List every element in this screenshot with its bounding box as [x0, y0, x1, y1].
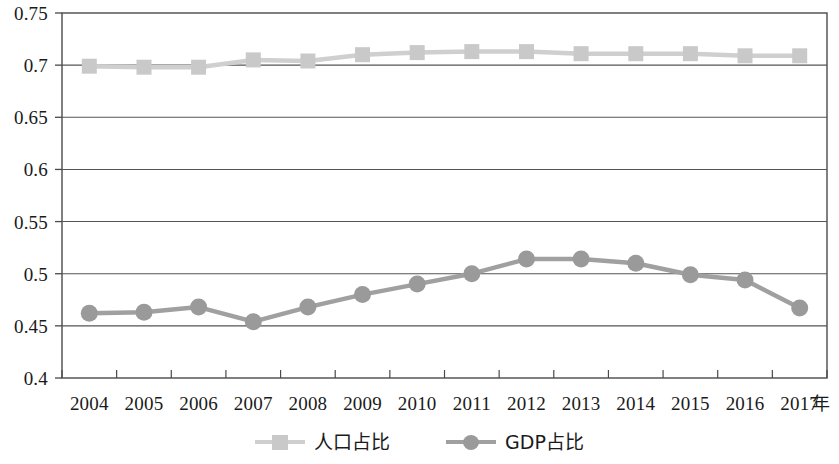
x-axis-tick-label: 2004 [70, 393, 109, 415]
legend-marker-square-icon [255, 433, 305, 451]
x-axis-tick-label: 2011 [453, 393, 491, 415]
legend-entry-gdp: GDP占比 [446, 432, 584, 452]
x-axis-tick-label: 2007 [234, 393, 273, 415]
x-axis-tick-label: 2015 [671, 393, 710, 415]
line-chart: 0.750.70.650.60.550.50.450.4 年 200420052… [0, 0, 839, 464]
x-axis-tick-label: 2009 [343, 393, 382, 415]
x-axis-tick-label: 2008 [288, 393, 327, 415]
x-axis-tick-labels: 年 20042005200620072008200920102011201220… [0, 0, 839, 464]
x-axis-tick-label: 2017 [780, 393, 819, 415]
legend-label-gdp: GDP占比 [505, 432, 584, 452]
x-axis-tick-label: 2010 [398, 393, 437, 415]
x-axis-tick-label: 2016 [726, 393, 765, 415]
x-axis-tick-label: 2005 [125, 393, 164, 415]
legend-marker-circle-icon [446, 433, 496, 451]
x-axis-tick-label: 2013 [562, 393, 601, 415]
x-axis-tick-label: 2014 [616, 393, 655, 415]
chart-legend: 人口占比 GDP占比 [0, 432, 839, 452]
legend-label-population: 人口占比 [314, 432, 390, 452]
x-axis-tick-label: 2006 [179, 393, 218, 415]
legend-entry-population: 人口占比 [255, 432, 390, 452]
x-axis-tick-label: 2012 [507, 393, 546, 415]
